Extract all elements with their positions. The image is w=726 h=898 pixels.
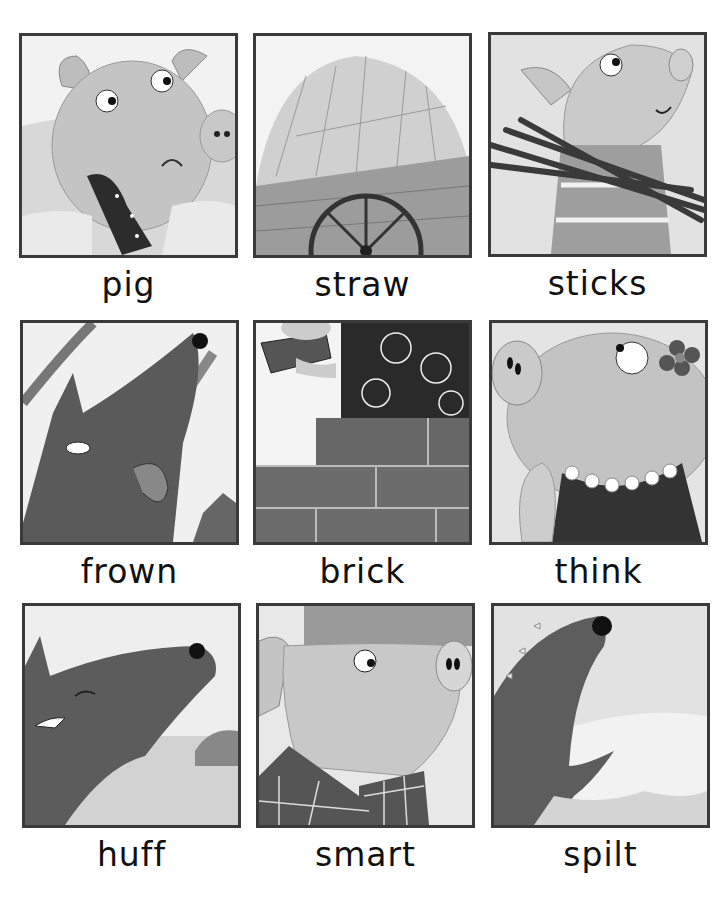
wolf-picture-icon (23, 323, 236, 542)
straw-cart-picture-icon (256, 36, 469, 255)
word-label: sticks (488, 264, 707, 304)
thinking-pig-picture-icon (492, 323, 705, 542)
word-label: huff (22, 835, 241, 875)
picture-frame (491, 603, 710, 828)
pig-picture-icon (22, 36, 235, 255)
word-label: brick (253, 552, 472, 592)
smart-pig-picture-icon (259, 606, 472, 825)
word-label: pig (19, 265, 238, 305)
picture-frame (20, 320, 239, 545)
picture-frame (253, 320, 472, 545)
word-label: smart (256, 835, 475, 875)
picture-frame (22, 603, 241, 828)
picture-frame (489, 320, 708, 545)
word-label: spilt (491, 835, 710, 875)
pig-with-sticks-picture-icon (491, 35, 704, 254)
word-label: think (489, 552, 708, 592)
brick-wall-picture-icon (256, 323, 469, 542)
picture-frame (253, 33, 472, 258)
wolf-huffing-picture-icon (25, 606, 238, 825)
word-label: frown (20, 552, 239, 592)
word-label: straw (253, 265, 472, 305)
picture-frame (488, 32, 707, 257)
picture-frame (19, 33, 238, 258)
wolf-in-spilt-water-picture-icon (494, 606, 707, 825)
picture-frame (256, 603, 475, 828)
